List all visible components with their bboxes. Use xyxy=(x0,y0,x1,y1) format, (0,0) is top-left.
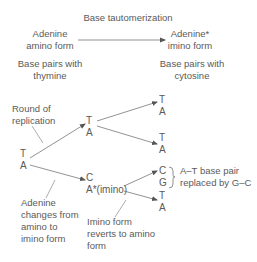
arrow-gen1bottom-to-gen2-3 xyxy=(124,171,157,186)
left-pairs-line2: thymine xyxy=(5,70,95,82)
right-form-line1: Adenine* xyxy=(150,28,230,40)
left-form-line2: amino form xyxy=(10,40,90,52)
leader-adenine-changes xyxy=(46,180,55,198)
round-of-replication-line2: replication xyxy=(12,115,55,127)
arrow-root-to-gen1-bottom xyxy=(30,165,85,180)
right-pairs-line2: cytosine xyxy=(147,70,237,82)
imino-reverts-line1: Imino form xyxy=(87,216,132,228)
adenine-changes-line2: changes from xyxy=(21,209,79,221)
title: Base tautomerization xyxy=(78,12,178,24)
adenine-changes-line1: Adenine xyxy=(21,197,56,209)
round-of-replication-line1: Round of xyxy=(12,103,51,115)
leader-imino-reverts xyxy=(115,200,126,217)
arrow-gen1top-to-gen2-2 xyxy=(97,126,157,144)
gen2-3-base-bottom: G xyxy=(159,177,167,189)
arrow-gen1bottom-to-gen2-4 xyxy=(124,191,157,200)
gen2-1-base-bottom: A xyxy=(159,106,166,118)
right-pairs-line1: Base pairs with xyxy=(147,58,237,70)
replaced-line1: A–T base pair xyxy=(180,165,239,177)
gen1-bottom-base-top: C xyxy=(86,172,93,184)
adenine-changes-line3: amino to xyxy=(21,221,57,233)
adenine-changes-line4: imino form xyxy=(21,233,65,245)
replaced-line2: replaced by G–C xyxy=(180,177,251,189)
gen2-3-base-top: C xyxy=(159,165,166,177)
gen2-1-base-top: T xyxy=(159,94,165,106)
imino-reverts-line3: form xyxy=(87,240,106,252)
gen2-4-base-bottom: A xyxy=(159,202,166,214)
arrow-root-to-gen1-top xyxy=(30,124,85,158)
leader-round-of-replication xyxy=(32,126,43,143)
gen1-top-base-bottom: A xyxy=(86,127,93,139)
left-pairs-line1: Base pairs with xyxy=(5,58,95,70)
left-form-line1: Adenine xyxy=(10,28,90,40)
root-base-top: T xyxy=(20,148,26,160)
gen1-bottom-base-bottom: A*(imino) xyxy=(86,184,127,196)
gen1-top-base-top: T xyxy=(86,115,92,127)
brace-icon xyxy=(169,167,175,188)
arrow-gen1top-to-gen2-1 xyxy=(97,102,157,121)
gen2-2-base-bottom: A xyxy=(159,144,166,156)
gen2-2-base-top: T xyxy=(159,132,165,144)
root-base-bottom: A xyxy=(20,160,27,172)
imino-reverts-line2: reverts to amino xyxy=(87,228,155,240)
gen2-4-base-top: T xyxy=(159,190,165,202)
right-form-line2: imino form xyxy=(150,40,230,52)
